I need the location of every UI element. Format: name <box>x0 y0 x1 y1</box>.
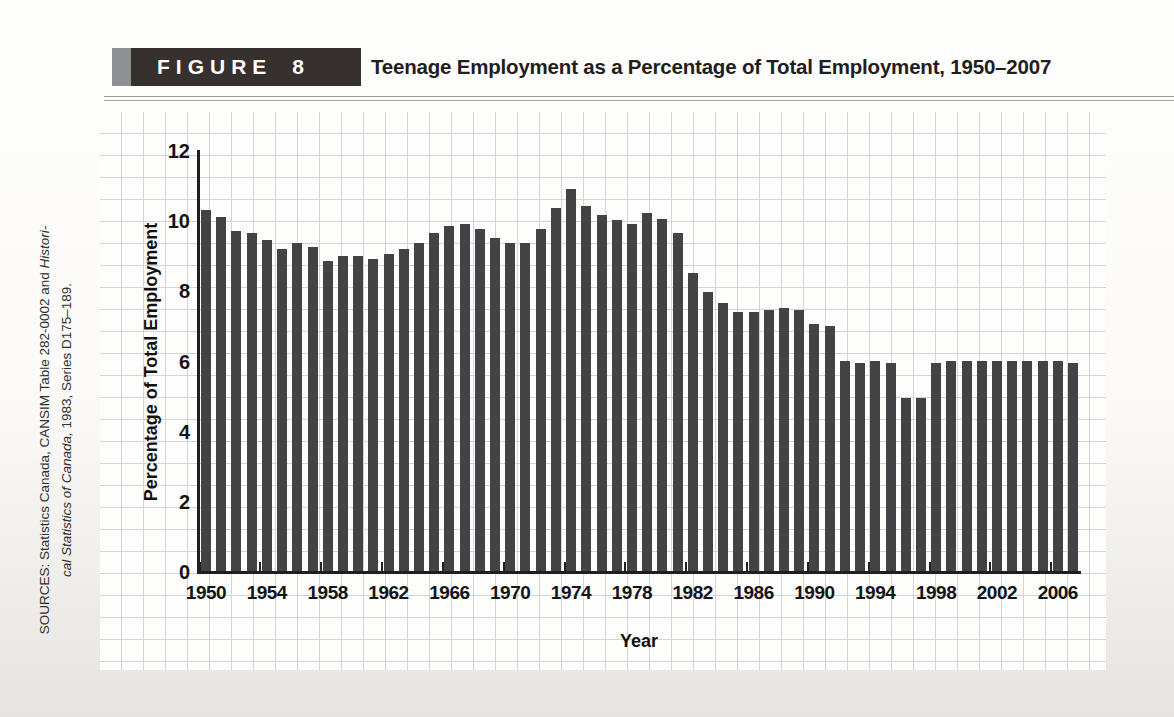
bar-1995 <box>886 363 896 574</box>
textbook-page: FIGURE 8 Teenage Employment as a Percent… <box>0 0 1174 717</box>
y-axis-line <box>197 150 200 574</box>
x-tick-mark-2006 <box>1050 562 1052 571</box>
bar-2002 <box>992 361 1002 573</box>
bar-1953 <box>247 233 257 573</box>
y-tick-label-12: 12 <box>145 140 190 163</box>
bar-1960 <box>353 256 363 574</box>
bar-2006 <box>1053 361 1063 573</box>
bar-1952 <box>231 231 241 573</box>
bar-1959 <box>338 256 348 574</box>
x-tick-mark-1954 <box>259 562 261 571</box>
bar-1963 <box>399 249 409 574</box>
bar-1966 <box>444 226 454 573</box>
bar-1950 <box>201 210 211 573</box>
bar-1978 <box>627 224 637 573</box>
bar-1972 <box>536 229 546 573</box>
x-tick-mark-1998 <box>929 562 931 571</box>
bar-1987 <box>764 310 774 573</box>
x-axis-line <box>197 571 1081 574</box>
bar-1985 <box>733 312 743 573</box>
bar-1989 <box>794 310 804 573</box>
x-tick-mark-1958 <box>320 562 322 571</box>
bar-2001 <box>977 361 987 573</box>
y-axis-title: Percentage of Total Employment <box>141 223 162 502</box>
bar-1997 <box>916 398 926 573</box>
bar-1975 <box>581 206 591 573</box>
bar-1956 <box>292 243 302 573</box>
bar-2000 <box>962 361 972 573</box>
bar-1969 <box>490 238 500 573</box>
bar-1984 <box>718 303 728 573</box>
bar-1986 <box>749 312 759 573</box>
figure-label-word: FIGURE <box>157 55 272 79</box>
figure-label-box: FIGURE 8 <box>131 48 361 86</box>
bar-1990 <box>809 324 819 573</box>
bar-1981 <box>673 233 683 573</box>
bar-1977 <box>612 220 622 573</box>
bar-1951 <box>216 217 226 573</box>
x-tick-mark-1970 <box>503 562 505 571</box>
bar-1968 <box>475 229 485 573</box>
x-tick-mark-2002 <box>989 562 991 571</box>
x-tick-mark-1990 <box>807 562 809 571</box>
x-tick-mark-1966 <box>442 562 444 571</box>
bar-1992 <box>840 361 850 573</box>
source-line-2: cal Statistics of Canada, 1983, Series D… <box>56 180 78 680</box>
bar-2004 <box>1022 361 1032 573</box>
bar-1976 <box>597 215 607 573</box>
bar-1991 <box>825 326 835 573</box>
bar-1980 <box>657 219 667 573</box>
x-tick-mark-1994 <box>868 562 870 571</box>
figure-label-number: 8 <box>292 55 304 79</box>
source-line-1: SOURCES: Statistics Canada, CANSIM Table… <box>34 180 56 680</box>
bar-1999 <box>946 361 956 573</box>
source-note-text: SOURCES: Statistics Canada, CANSIM Table… <box>34 180 77 680</box>
bar-1971 <box>520 243 530 573</box>
bar-1982 <box>688 273 698 573</box>
bar-1993 <box>855 363 865 574</box>
bar-1965 <box>429 233 439 573</box>
bar-1955 <box>277 249 287 574</box>
bar-2003 <box>1007 361 1017 573</box>
bar-1962 <box>384 254 394 573</box>
bar-1958 <box>323 261 333 573</box>
bar-1970 <box>505 243 515 573</box>
bar-1983 <box>703 292 713 573</box>
bar-1964 <box>414 243 424 573</box>
bar-1967 <box>460 224 470 573</box>
bar-2007 <box>1068 363 1078 574</box>
y-tick-label-0: 0 <box>145 561 190 584</box>
x-tick-mark-1974 <box>564 562 566 571</box>
x-tick-mark-1986 <box>746 562 748 571</box>
source-note: SOURCES: Statistics Canada, CANSIM Table… <box>30 180 82 680</box>
x-axis-title: Year <box>620 631 658 652</box>
figure-title: Teenage Employment as a Percentage of To… <box>371 48 1164 86</box>
header-divider-rule <box>104 96 1174 101</box>
bar-1998 <box>931 363 941 574</box>
x-tick-label-2006: 2006 <box>1022 582 1094 604</box>
bar-1988 <box>779 308 789 573</box>
bar-1994 <box>870 361 880 573</box>
x-tick-mark-1950 <box>199 562 201 571</box>
x-tick-mark-1982 <box>685 562 687 571</box>
bar-1979 <box>642 213 652 573</box>
x-tick-mark-1978 <box>624 562 626 571</box>
bar-1974 <box>566 189 576 573</box>
bar-1954 <box>262 240 272 573</box>
bar-1973 <box>551 208 561 573</box>
bar-1957 <box>308 247 318 573</box>
x-tick-mark-1962 <box>381 562 383 571</box>
figure-accent-square <box>112 48 131 86</box>
bar-1996 <box>901 398 911 573</box>
bar-2005 <box>1038 361 1048 573</box>
bar-1961 <box>368 259 378 573</box>
